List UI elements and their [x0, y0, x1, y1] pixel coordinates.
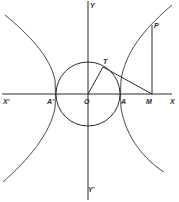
hyperbola-right-branch: [121, 5, 173, 172]
segment-OT: [88, 67, 103, 94]
label-A-prime: A': [46, 98, 54, 105]
tangent-TM: [103, 67, 152, 94]
label-X: X: [169, 98, 176, 105]
label-O: O: [84, 98, 90, 105]
hyperbola-diagram: Y Y' X' A' O A M X T P: [0, 0, 179, 202]
label-Y-prime: Y': [88, 186, 95, 193]
label-X-prime: X': [2, 98, 10, 105]
label-A: A: [120, 98, 126, 105]
label-M: M: [146, 98, 152, 105]
label-P: P: [154, 22, 159, 29]
label-Y: Y: [90, 2, 96, 9]
label-T: T: [103, 58, 108, 65]
